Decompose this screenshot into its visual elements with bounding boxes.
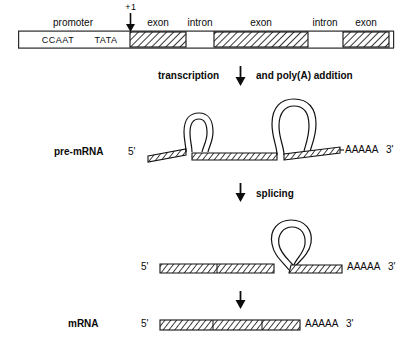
gene-exon-1: [130, 32, 186, 47]
mrna-strand: [160, 320, 300, 330]
pre-mrna-polya-label: AAAAA: [345, 144, 378, 155]
transcription-start-label: +1: [125, 2, 136, 13]
gene-label-intron-2: intron: [312, 17, 337, 28]
mrna-three-prime-label: 3': [346, 318, 353, 329]
figure-canvas: +1 promoter exon intron exon intron exon…: [0, 0, 412, 347]
splicing-step-label: splicing: [256, 188, 294, 199]
pre-mrna-name-label: pre-mRNA: [54, 146, 103, 157]
intermediate-five-prime-label: 5': [141, 261, 148, 272]
intermediate-three-prime-label: 3': [388, 261, 395, 272]
mrna-five-prime-label: 5': [141, 318, 148, 329]
splicing-arrow-icon: [236, 183, 246, 202]
pre-mrna-three-prime-label: 3': [386, 144, 393, 155]
gene-label-intron-1: intron: [187, 17, 212, 28]
intermediate-strand: [160, 220, 342, 273]
pre-mrna-five-prime-label: 5': [128, 146, 135, 157]
gene-exon-2: [214, 32, 308, 47]
gene-label-exon-1: exon: [147, 17, 169, 28]
mrna-polya-label: AAAAA: [305, 318, 338, 329]
promoter-element-ccaat: CCAAT: [42, 35, 74, 46]
transcription-arrow-icon: [236, 66, 246, 86]
gene-label-exon-2: exon: [250, 17, 272, 28]
promoter-element-tata: TATA: [95, 35, 118, 46]
polya-step-label: and poly(A) addition: [256, 70, 353, 81]
transcription-start-arrow-icon: [126, 13, 135, 32]
promoter-label: promoter: [53, 17, 93, 28]
gene-exon-3: [343, 32, 389, 47]
mrna-name-label: mRNA: [68, 318, 99, 329]
pre-mrna-strand: [148, 99, 344, 162]
transcription-step-label: transcription: [158, 70, 219, 81]
intermediate-polya-label: AAAAA: [347, 261, 380, 272]
gene-label-exon-3: exon: [355, 17, 377, 28]
final-arrow-icon: [236, 291, 246, 309]
diagram-graphics: [0, 0, 412, 347]
